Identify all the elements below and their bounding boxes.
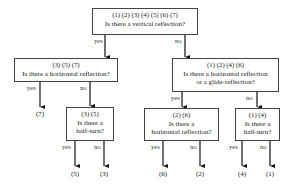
right-yes-no-label: no (190, 143, 197, 150)
decision-tree-diagram: (1) (2) (3) (4) (5) (6) (7) Is there a v… (0, 0, 290, 187)
root-ids: (1) (2) (3) (4) (5) (6) (7) (93, 11, 197, 20)
right-yes-yes-label: yes (151, 143, 160, 150)
right-no-label: no (246, 94, 253, 101)
right-ids: (1) (2) (4) (6) (173, 61, 278, 70)
left-node: (3) (5) (7) Is there a horizontal reflec… (14, 58, 118, 82)
right-question-1: Is there a horizontal reflection (173, 70, 278, 79)
right-yes-ids: (2) (6) (145, 111, 218, 120)
right-no-question-2: half-turn? (236, 128, 279, 137)
left-no-question-1: Is there a (67, 119, 113, 128)
right-no-node: (1) (4) Is there a half-turn? (235, 108, 280, 141)
right-no-ids: (1) (4) (236, 111, 279, 120)
root-question: Is there a vertical reflection? (93, 20, 197, 29)
left-no-label: no (80, 84, 87, 91)
leaf-7: (7) (36, 110, 44, 118)
left-ids: (3) (5) (7) (15, 61, 117, 70)
right-yes-label: yes (171, 94, 180, 101)
leaf-4: (4) (238, 170, 246, 178)
right-question-2: or a glide-reflection? (173, 78, 278, 87)
right-no-question-1: Is there a (236, 120, 279, 129)
right-no-yes-label: yes (229, 143, 238, 150)
leaf-1: (1) (266, 170, 274, 178)
right-no-no-label: no (260, 143, 267, 150)
left-question: Is there a horizontal reflection? (15, 70, 117, 79)
left-no-question-2: half-turn? (67, 127, 113, 136)
left-yes-label: yes (27, 84, 36, 91)
root-yes-label: yes (94, 37, 103, 44)
left-no-ids: (3) (5) (67, 110, 113, 119)
leaf-5: (5) (71, 170, 79, 178)
left-no-node: (3) (5) Is there a half-turn? (66, 107, 114, 141)
left-no-yes-label: yes (62, 143, 71, 150)
right-node: (1) (2) (4) (6) Is there a horizontal re… (172, 58, 279, 92)
leaf-6: (6) (159, 170, 167, 178)
right-yes-question-2: horizontal reflection? (145, 128, 218, 137)
leaf-3: (3) (100, 170, 108, 178)
right-yes-node: (2) (6) Is there a horizontal reflection… (144, 108, 219, 141)
root-no-label: no (175, 37, 182, 44)
left-no-no-label: no (94, 143, 101, 150)
root-node: (1) (2) (3) (4) (5) (6) (7) Is there a v… (92, 8, 198, 35)
leaf-2: (2) (196, 170, 204, 178)
right-yes-question-1: Is there a (145, 120, 218, 129)
